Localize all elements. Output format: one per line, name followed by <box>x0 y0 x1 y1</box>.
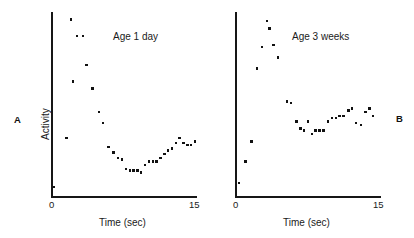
data-point <box>163 153 165 155</box>
data-point <box>335 117 337 119</box>
data-point <box>299 127 301 129</box>
data-point <box>355 122 357 124</box>
data-point <box>322 129 324 131</box>
data-point <box>152 160 154 162</box>
data-point <box>121 158 123 160</box>
data-point <box>327 120 329 122</box>
data-point <box>140 171 142 173</box>
panel-a-plot-area <box>0 0 207 238</box>
data-point <box>303 129 305 131</box>
data-point <box>102 122 104 124</box>
data-point <box>65 137 67 139</box>
panel-a-x-axis <box>51 196 197 198</box>
data-point <box>250 140 252 142</box>
panel-b-x-axis <box>235 196 381 198</box>
data-point <box>182 142 184 144</box>
data-point <box>311 133 313 135</box>
data-point <box>266 20 268 22</box>
data-point <box>286 100 288 102</box>
data-point <box>112 151 114 153</box>
panel-b-x-axis-title: Time (sec) <box>283 218 330 228</box>
data-point <box>175 142 177 144</box>
data-point <box>190 144 192 146</box>
panel-a-xtick-0: 0 <box>49 200 54 210</box>
data-point <box>98 111 100 113</box>
data-point <box>307 120 309 122</box>
data-point <box>117 157 119 159</box>
data-point <box>194 140 196 142</box>
data-point <box>129 169 131 171</box>
data-point <box>290 102 292 104</box>
data-point <box>244 160 246 162</box>
data-point <box>186 144 188 146</box>
data-point <box>351 107 353 109</box>
panel-a: A Activity Age 1 day 0 15 Time (sec) <box>0 0 207 238</box>
panel-b-y-axis <box>235 12 237 198</box>
data-point <box>256 67 258 69</box>
panel-b: B Age 3 weeks 0 15 Time (sec) <box>207 0 414 238</box>
figure-container: A Activity Age 1 day 0 15 Time (sec) B A… <box>0 0 414 238</box>
data-point <box>155 160 157 162</box>
data-point <box>82 35 84 37</box>
data-point <box>53 186 55 188</box>
data-point <box>178 137 180 139</box>
data-point <box>144 164 146 166</box>
data-point <box>331 117 333 119</box>
data-point <box>91 87 93 89</box>
panel-a-x-axis-title: Time (sec) <box>99 218 146 228</box>
data-point <box>171 147 173 149</box>
data-point <box>338 115 340 117</box>
data-point <box>132 169 134 171</box>
data-point <box>272 44 274 46</box>
data-point <box>364 111 366 113</box>
panel-a-xtick-15: 15 <box>189 200 200 210</box>
panel-b-xtick-0: 0 <box>233 200 238 210</box>
data-point <box>347 109 349 111</box>
data-point <box>159 157 161 159</box>
data-point <box>125 168 127 170</box>
data-point <box>277 56 279 58</box>
data-point <box>268 27 270 29</box>
panel-b-xtick-15: 15 <box>373 200 384 210</box>
data-point <box>368 107 370 109</box>
data-point <box>238 182 240 184</box>
data-point <box>148 160 150 162</box>
data-point <box>85 64 87 66</box>
data-point <box>107 146 109 148</box>
data-point <box>372 115 374 117</box>
data-point <box>295 120 297 122</box>
data-point <box>360 124 362 126</box>
data-point <box>342 115 344 117</box>
data-point <box>167 149 169 151</box>
data-point <box>261 46 263 48</box>
data-point <box>70 18 72 20</box>
data-point <box>76 35 78 37</box>
panel-a-y-axis <box>51 12 53 198</box>
data-point <box>318 129 320 131</box>
data-point <box>72 80 74 82</box>
data-point <box>314 129 316 131</box>
data-point <box>136 169 138 171</box>
